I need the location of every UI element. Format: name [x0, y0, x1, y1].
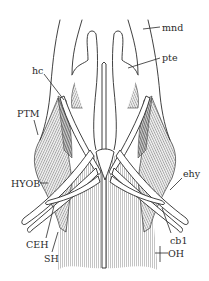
label-sh: SH [44, 253, 59, 264]
label-ceh: CEH [26, 239, 49, 250]
label-cb1: cb1 [170, 235, 187, 246]
leader-mnd [143, 27, 160, 29]
leader-ehy [170, 178, 182, 190]
label-hc: hc [32, 65, 43, 76]
anatomical-figure: mnd pte hc PTM HYOB ehy CEH SH cb1 OH [0, 0, 209, 281]
label-ehy: ehy [183, 168, 201, 179]
label-hyob: HYOB [11, 178, 40, 189]
label-oh: OH [168, 248, 184, 259]
label-ptm: PTM [17, 108, 40, 119]
leader-ptm [34, 120, 38, 135]
label-pte: pte [162, 52, 178, 63]
leader-hc [44, 74, 64, 100]
leader-sh [52, 232, 58, 252]
leader-pte [128, 58, 160, 68]
label-mnd: mnd [162, 22, 183, 33]
